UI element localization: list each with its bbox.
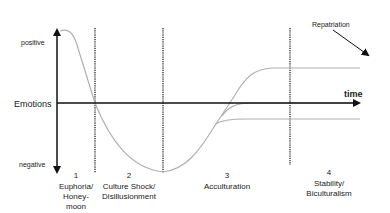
positive-label: positive — [21, 39, 45, 47]
phase-2-label: 2 Culture Shock/ Disillusionment — [102, 171, 157, 201]
phase-3-label: 3 Acculturation — [204, 171, 250, 191]
svg-text:4: 4 — [327, 168, 332, 177]
svg-text:Disillusionment: Disillusionment — [102, 192, 157, 201]
svg-text:1: 1 — [74, 171, 79, 180]
svg-text:2: 2 — [127, 171, 132, 180]
svg-text:Stability/: Stability/ — [314, 179, 345, 188]
svg-text:Acculturation: Acculturation — [204, 182, 250, 191]
adjustment-curve-middle-branch — [222, 103, 360, 116]
emotions-label: Emotions — [14, 99, 52, 109]
adjustment-curve — [60, 30, 360, 172]
repatriation-arrow — [333, 30, 368, 55]
svg-text:moon: moon — [66, 202, 86, 211]
svg-text:Euphoria/: Euphoria/ — [59, 182, 94, 191]
svg-text:Biculturalism: Biculturalism — [306, 189, 352, 198]
adjustment-curve-lower-branch — [216, 119, 360, 124]
svg-text:3: 3 — [225, 171, 230, 180]
negative-label: negative — [19, 161, 46, 169]
svg-text:Culture Shock/: Culture Shock/ — [103, 182, 156, 191]
phase-1-label: 1 Euphoria/ Honey- moon — [59, 171, 94, 211]
time-label: time — [344, 89, 363, 99]
phase-4-label: 4 Stability/ Biculturalism — [306, 168, 352, 198]
repatriation-label: Repatriation — [312, 21, 350, 29]
culture-shock-diagram: positive Emotions negative time Repatria… — [0, 0, 390, 213]
svg-text:Honey-: Honey- — [63, 192, 89, 201]
